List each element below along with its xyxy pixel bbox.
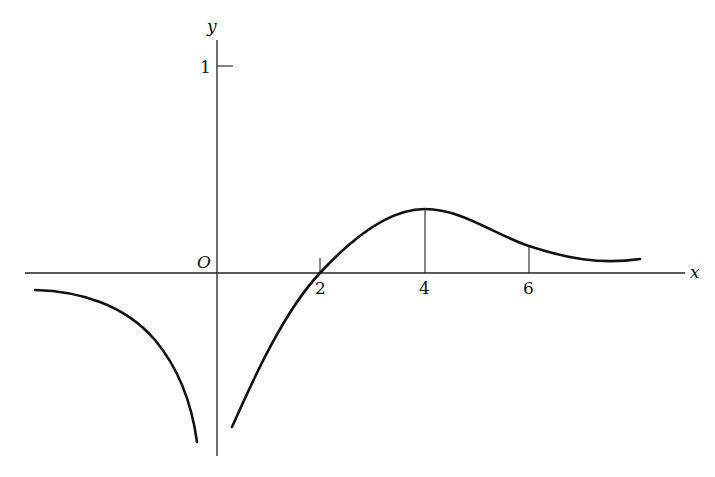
curve-right-branch — [232, 209, 640, 427]
x-tick-label-2: 2 — [315, 278, 326, 298]
x-axis-label: x — [690, 262, 700, 282]
curve-left-branch — [35, 290, 197, 442]
x-tick-label-6: 6 — [523, 278, 534, 298]
x-tick-label-4: 4 — [419, 278, 430, 298]
function-graph: 1 2 4 6 y x O — [0, 0, 715, 477]
origin-label: O — [197, 252, 211, 272]
y-tick-label-1: 1 — [200, 57, 211, 77]
y-axis-label: y — [206, 16, 217, 36]
